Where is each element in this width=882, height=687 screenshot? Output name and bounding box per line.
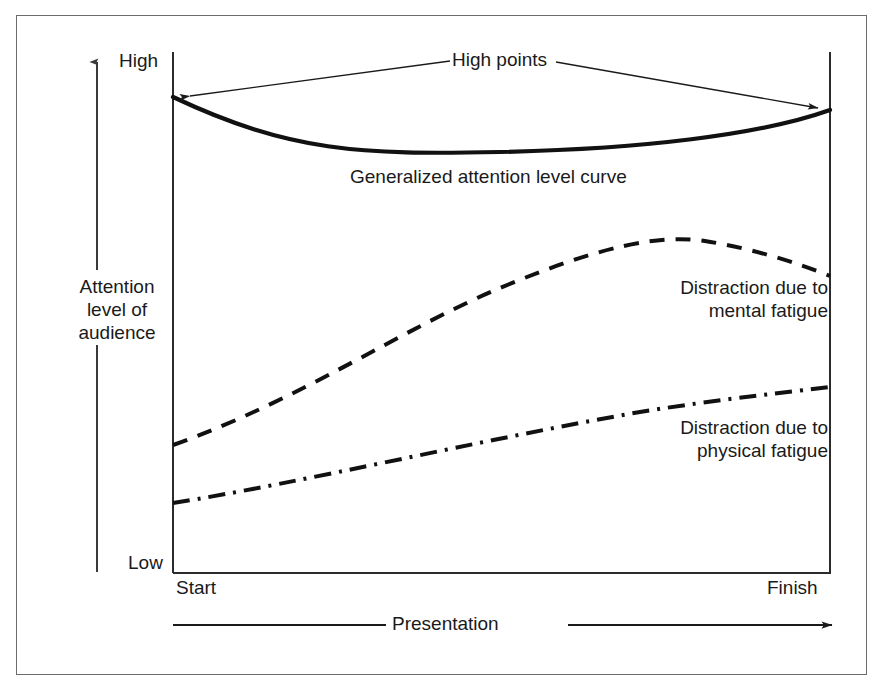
axis-label-start: Start <box>176 576 216 599</box>
annotation-high-points: High points <box>452 48 547 71</box>
x-axis-title: Presentation <box>392 612 499 635</box>
axis-label-finish: Finish <box>767 576 818 599</box>
annotation-generalized-curve: Generalized attention level curve <box>350 165 627 188</box>
series-attention-curve <box>173 97 830 153</box>
series-mental-fatigue <box>173 239 830 445</box>
axis-label-high: High <box>119 49 158 72</box>
annotation-mental-fatigue: Distraction due to mental fatigue <box>600 276 828 322</box>
high-points-leader-left <box>190 61 450 96</box>
y-axis-title: Attention level of audience <box>57 275 177 344</box>
figure-page: High Low Start Finish Attention level of… <box>0 0 882 687</box>
annotation-physical-fatigue: Distraction due to physical fatigue <box>600 416 828 462</box>
axis-label-low: Low <box>128 551 163 574</box>
high-points-leader-right <box>556 62 818 108</box>
